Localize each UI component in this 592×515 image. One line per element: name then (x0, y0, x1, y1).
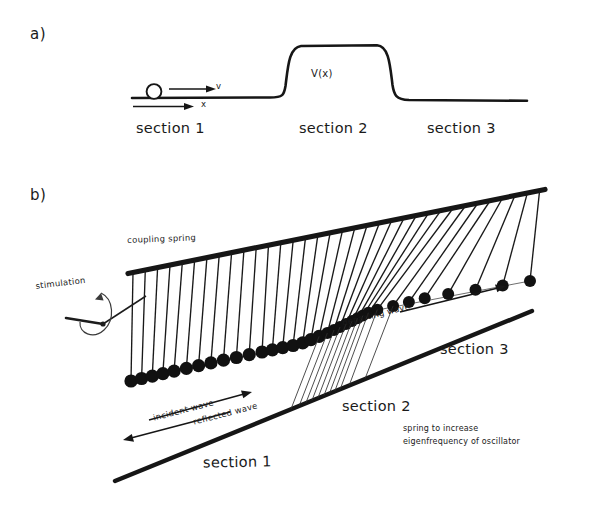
oscillator-rod (530, 191, 540, 281)
coupling-spring-bar (128, 190, 545, 274)
velocity-arrow-icon (169, 86, 216, 93)
oscillator-bob (217, 354, 230, 367)
oscillator-rod (131, 273, 133, 382)
panel-a-tag: a) (30, 25, 46, 43)
x-axis-label: x (201, 99, 206, 109)
stimulation-crank-icon (66, 293, 146, 335)
oscillator-rod (283, 240, 294, 347)
panel-b-tag: b) (30, 186, 46, 204)
oscillator-bob (204, 356, 217, 369)
oscillator-rod (249, 248, 256, 355)
oscillator-bob (168, 365, 181, 378)
oscillator-rod (236, 250, 244, 357)
oscillator-bob (192, 359, 205, 372)
oscillator-rod (163, 265, 170, 374)
oscillator-rod (142, 270, 146, 379)
velocity-label: v (216, 81, 221, 91)
potential-label-vx: V(x) (311, 68, 333, 79)
oscillator-rod (199, 258, 207, 366)
oscillator-rod (152, 268, 157, 377)
oscillator-bob (419, 292, 431, 304)
oscillator-rod (262, 245, 269, 352)
panel-a-section-1-label: section 1 (136, 120, 205, 136)
oscillator-rod (503, 193, 528, 285)
oscillator-rod (303, 235, 318, 343)
panel-a-section-3-label: section 3 (427, 120, 496, 136)
oscillator-bob (230, 351, 243, 364)
oscillator-rod (224, 253, 232, 361)
oscillator-rod (272, 243, 280, 350)
oscillator-bob (180, 362, 193, 375)
panel-b-section-3-label: section 3 (440, 341, 509, 357)
oscillator-rod (293, 238, 305, 346)
oscillator-rod (186, 260, 194, 368)
panel-b-section-1-label: section 1 (203, 453, 272, 470)
oscillator-bob (442, 288, 454, 300)
oscillator-chain (124, 191, 539, 388)
eigenfrequency-spring-label-line2: eigenfrequency of oscillator (403, 437, 520, 446)
particle-ball-icon (147, 84, 162, 99)
panel-b-section-2-label: section 2 (342, 398, 411, 414)
oscillator-bob (156, 367, 169, 380)
oscillator-bob (524, 275, 536, 287)
oscillator-rod (211, 255, 219, 363)
eigenfrequency-spring-label-line1: spring to increase (403, 424, 478, 433)
oscillator-rod (174, 263, 182, 372)
x-axis-arrow-icon (133, 103, 194, 110)
panel-a-section-2-label: section 2 (299, 120, 368, 136)
oscillator-rod (311, 233, 330, 340)
oscillator-bob (243, 348, 256, 361)
